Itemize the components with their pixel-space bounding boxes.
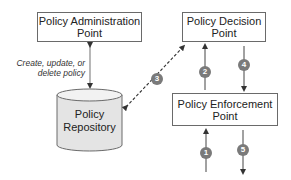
policy-repository-label: Policy Repository	[57, 108, 122, 134]
pap-label-line1: Policy Administration	[39, 15, 141, 27]
policy-enforcement-point-box: Policy Enforcement Point	[172, 93, 278, 126]
step-3-badge: 3	[151, 73, 163, 85]
policy-decision-point-box: Policy Decision Point	[182, 12, 266, 42]
edge-label-line2: delete policy	[5, 68, 85, 78]
step-5-badge: 5	[237, 144, 249, 156]
pdp-label-line2: Point	[187, 27, 262, 39]
pap-label-line2: Point	[39, 27, 141, 39]
repository-label-line2: Repository	[57, 121, 122, 134]
policy-administration-point-box: Policy Administration Point	[37, 12, 142, 42]
pdp-label-line1: Policy Decision	[187, 15, 262, 27]
step-4-badge: 4	[238, 59, 250, 71]
step-1-badge: 1	[200, 147, 212, 159]
repository-label-line1: Policy	[57, 108, 122, 121]
edge-label-line1: Create, update, or	[5, 58, 85, 68]
create-update-delete-label: Create, update, or delete policy	[5, 58, 85, 78]
pep-label-line1: Policy Enforcement	[178, 98, 273, 110]
pep-label-line2: Point	[178, 110, 273, 122]
step-2-badge: 2	[199, 66, 211, 78]
